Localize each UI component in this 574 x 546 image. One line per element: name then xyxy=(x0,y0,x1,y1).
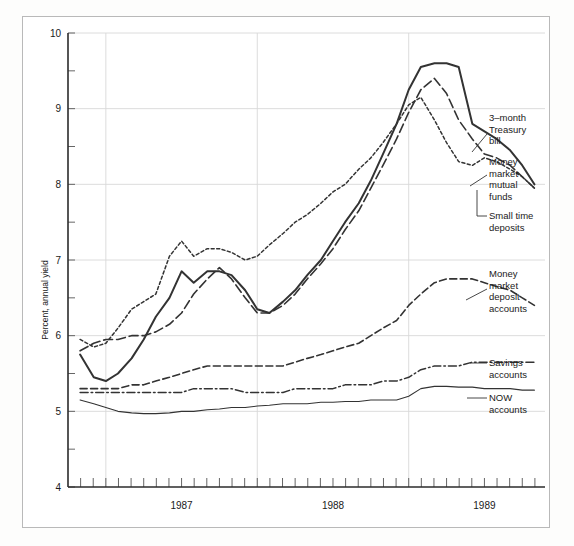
annotation-line: accounts xyxy=(489,369,527,380)
annotation-line: bill xyxy=(489,135,501,146)
y-tick-label: 6 xyxy=(55,330,61,341)
leader-line-treasury-bill xyxy=(472,134,487,152)
y-tick-label: 10 xyxy=(50,28,62,39)
annotation-line: Money xyxy=(489,268,518,279)
annotation-line: deposits xyxy=(489,222,525,233)
y-tick-label: 7 xyxy=(55,255,61,266)
y-tick-label: 9 xyxy=(55,103,61,114)
y-tick-label: 4 xyxy=(55,482,61,493)
leader-line-mm-deposit-accounts xyxy=(466,289,487,300)
leader-line-small-time-deposits xyxy=(477,190,487,216)
annotation-treasury-bill: 3–monthTreasurybill xyxy=(489,112,526,146)
annotation-mm-mutual-funds: Moneymarketmutualfunds xyxy=(489,156,518,202)
annotation-line: NOW xyxy=(489,392,512,403)
x-axis-ticks-group xyxy=(81,478,535,487)
x-tick-label: 1989 xyxy=(473,500,496,511)
series-annotations-group: 3–monthTreasurybillMoneymarketmutualfund… xyxy=(489,112,533,415)
annotation-line: Treasury xyxy=(489,124,526,135)
annotation-savings-accounts: Savingsaccounts xyxy=(489,357,527,380)
annotation-now-accounts: NOWaccounts xyxy=(489,392,527,415)
series-line-small-time-deposits xyxy=(80,78,534,350)
y-tick-label: 8 xyxy=(55,179,61,190)
x-axis-tick-labels-group: 198719881989 xyxy=(170,500,496,511)
annotation-line: accounts xyxy=(489,404,527,415)
series-line-3-month-treasury-bill xyxy=(80,97,534,347)
series-line-savings-accounts xyxy=(80,362,534,392)
series-line-now-accounts xyxy=(80,386,534,413)
y-axis-label: Percent, annual yield xyxy=(40,260,50,340)
y-axis-ticks-group xyxy=(68,33,75,487)
annotation-line: market xyxy=(489,168,518,179)
annotation-line: mutual xyxy=(489,179,518,190)
y-axis-tick-labels-group: 45678910 xyxy=(50,28,62,493)
interest-rates-line-chart: 45678910 198719881989 Percent, annual yi… xyxy=(0,0,574,546)
annotation-line: Small time xyxy=(489,210,533,221)
annotation-leader-lines-group xyxy=(466,134,487,398)
annotation-line: accounts xyxy=(489,303,527,314)
annotation-line: funds xyxy=(489,191,512,202)
series-line-money-market-mutual-funds xyxy=(80,63,534,381)
annotation-line: deposit xyxy=(489,291,520,302)
y-tick-label: 5 xyxy=(55,406,61,417)
annotation-small-time-deposits: Small timedeposits xyxy=(489,210,533,233)
data-series-group xyxy=(80,63,534,413)
annotation-line: 3–month xyxy=(489,112,526,123)
x-tick-label: 1987 xyxy=(170,500,193,511)
annotation-line: Money xyxy=(489,156,518,167)
x-tick-label: 1988 xyxy=(322,500,345,511)
annotation-line: market xyxy=(489,280,518,291)
gridlines-group xyxy=(68,33,545,487)
annotation-mm-deposit-accounts: Moneymarketdepositaccounts xyxy=(489,268,527,314)
figure-container: 45678910 198719881989 Percent, annual yi… xyxy=(0,0,574,546)
annotation-line: Savings xyxy=(489,357,523,368)
